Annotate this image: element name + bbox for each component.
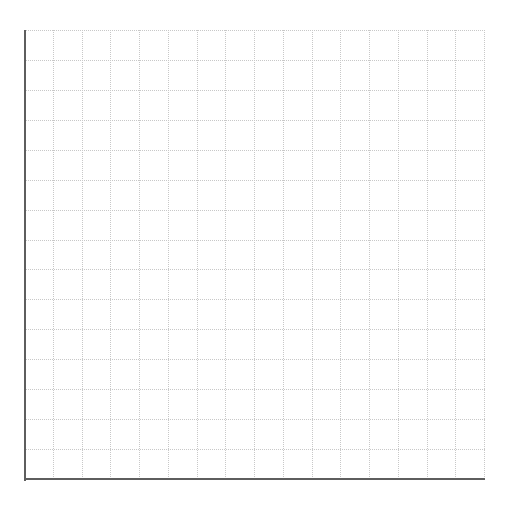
vertical-grid-line xyxy=(455,30,456,479)
vertical-grid-line xyxy=(82,30,83,479)
horizontal-grid-line xyxy=(25,389,485,390)
chart-plot-area xyxy=(25,30,485,479)
y-axis xyxy=(24,30,26,481)
horizontal-grid-line xyxy=(25,60,485,61)
vertical-grid-line xyxy=(283,30,284,479)
vertical-grid-line xyxy=(53,30,54,479)
horizontal-grid-line xyxy=(25,90,485,91)
vertical-grid-line xyxy=(340,30,341,479)
vertical-grid-line xyxy=(225,30,226,479)
horizontal-grid-line xyxy=(25,180,485,181)
vertical-grid-line xyxy=(484,30,485,479)
horizontal-grid-line xyxy=(25,329,485,330)
vertical-grid-line xyxy=(254,30,255,479)
vertical-grid-line xyxy=(427,30,428,479)
horizontal-grid-line xyxy=(25,419,485,420)
horizontal-grid-line xyxy=(25,299,485,300)
horizontal-grid-line xyxy=(25,359,485,360)
horizontal-grid-line xyxy=(25,30,485,31)
horizontal-grid-line xyxy=(25,449,485,450)
vertical-grid-line xyxy=(139,30,140,479)
horizontal-grid-line xyxy=(25,150,485,151)
vertical-grid-line xyxy=(398,30,399,479)
vertical-grid-line xyxy=(110,30,111,479)
x-axis xyxy=(24,478,485,480)
horizontal-grid-line xyxy=(25,120,485,121)
vertical-grid-line xyxy=(312,30,313,479)
vertical-grid-line xyxy=(197,30,198,479)
vertical-grid-line xyxy=(168,30,169,479)
vertical-grid-line xyxy=(369,30,370,479)
horizontal-grid-line xyxy=(25,240,485,241)
horizontal-grid-line xyxy=(25,210,485,211)
horizontal-grid-line xyxy=(25,269,485,270)
